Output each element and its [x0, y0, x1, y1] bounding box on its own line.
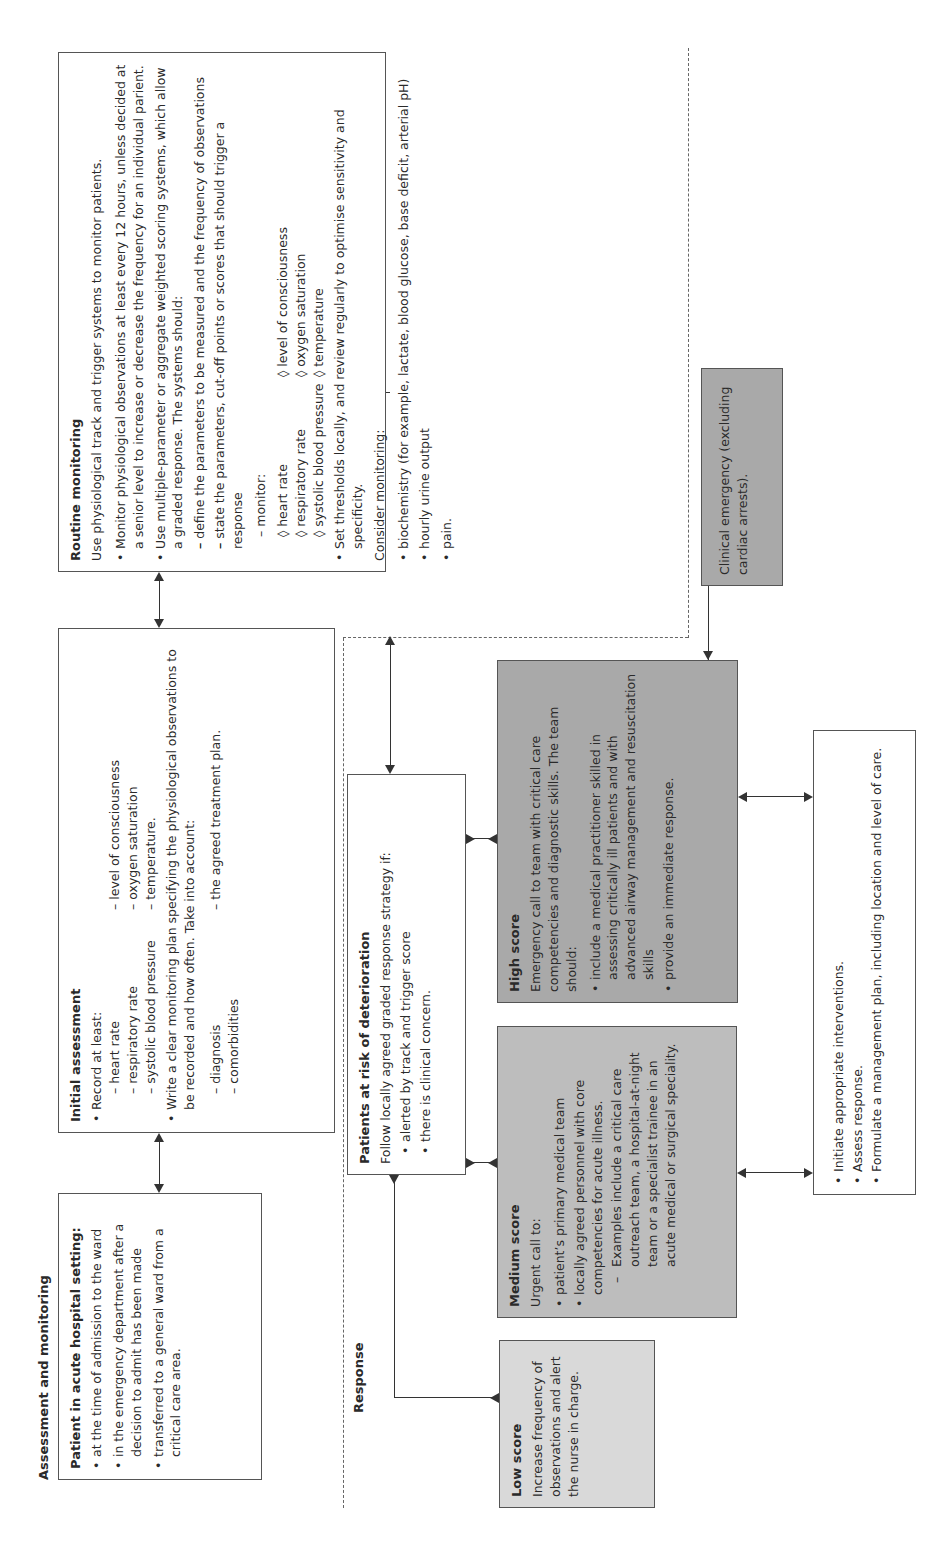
- atrisk-lowscore-connector: [394, 1175, 395, 1398]
- arrowhead-icon: [738, 792, 747, 802]
- emergency-high-connector: [708, 586, 709, 660]
- connector-arrow: [386, 392, 390, 393]
- at-risk-box: Patients at risk of deterioration Follow…: [347, 774, 466, 1175]
- high-interventions-connector: [742, 796, 809, 797]
- list-item: Initiate appropriate interventions.: [830, 741, 848, 1184]
- arrowhead-icon: [804, 1168, 813, 1178]
- consider-label: Consider monitoring:: [371, 63, 389, 561]
- high-score-title: High score: [506, 671, 524, 992]
- list-item: biochemistry (for example, lactate, bloo…: [395, 63, 413, 561]
- low-score-text: Increase frequency of observations and a…: [529, 1351, 582, 1497]
- arrowhead-icon: [389, 1175, 399, 1184]
- list-item: hourly urine output: [416, 63, 434, 561]
- arrowhead-icon: [804, 792, 813, 802]
- list-item: there is clinical concern.: [417, 785, 435, 1154]
- connector-arrow: [159, 1137, 160, 1189]
- list-item: Write a clear monitoring plan specifying…: [163, 639, 242, 1122]
- patient-setting-box: Patient in acute hospital setting: at th…: [58, 1193, 262, 1480]
- initial-assessment-box: Initial assessment Record at least: – he…: [58, 628, 335, 1133]
- at-risk-intro: Follow locally agreed graded response st…: [377, 785, 395, 1164]
- high-score-intro: Emergency call to team with critical car…: [527, 671, 580, 992]
- arrowhead-icon: [490, 1393, 499, 1403]
- list-item: – define the parameters to be measured a…: [191, 63, 209, 561]
- arrowhead-icon: [154, 1133, 164, 1142]
- arrowhead-icon: [385, 636, 395, 645]
- monitor-grid: heart rate level of consciousness respir…: [274, 63, 327, 561]
- list-item: patient’s primary medical team: [551, 1037, 569, 1307]
- list-item: alerted by track and trigger score: [397, 785, 415, 1154]
- list-item: Assess response.: [849, 741, 867, 1184]
- response-section-title: Response: [350, 1342, 368, 1413]
- routine-monitoring-title: Routine monitoring: [67, 63, 85, 561]
- list-item: – the agreed treatment plan.: [207, 710, 225, 910]
- list-item: include a medical practitioner skilled i…: [587, 671, 658, 992]
- section-divider: [343, 638, 344, 1508]
- list-item: Use multiple-parameter or aggregate weig…: [152, 63, 188, 561]
- patient-setting-title: Patient in acute hospital setting:: [67, 1204, 85, 1469]
- arrowhead-icon: [466, 1158, 475, 1168]
- medium-score-intro: Urgent call to:: [527, 1037, 545, 1307]
- list-item: pain.: [438, 63, 456, 561]
- list-item: temperature: [310, 207, 328, 377]
- list-item: – temperature.: [142, 710, 160, 910]
- arrowhead-icon: [385, 765, 395, 774]
- arrowhead-icon: [154, 1184, 164, 1193]
- list-item: transferred to a general ward from a cri…: [150, 1204, 186, 1469]
- list-item: locally agreed personnel with core compe…: [571, 1037, 607, 1307]
- patient-setting-list: at the time of admission to the ward in …: [88, 1204, 185, 1469]
- arrowhead-icon: [488, 834, 497, 844]
- arrowhead-icon: [703, 651, 713, 660]
- high-score-box: High score Emergency call to team with c…: [497, 660, 738, 1003]
- list-item: systolic blood pressure: [310, 377, 328, 537]
- list-item: – diagnosis: [207, 910, 225, 1110]
- monitoring-plan-text: Write a clear monitoring plan specifying…: [164, 649, 197, 1110]
- section-divider: [688, 48, 689, 638]
- list-item: Set thresholds locally, and review regul…: [331, 63, 367, 561]
- medium-score-box: Medium score Urgent call to: patient’s p…: [497, 1026, 737, 1318]
- list-item: at the time of admission to the ward: [88, 1204, 106, 1469]
- record-label: Record at least:: [89, 1012, 104, 1110]
- clinical-emergency-text: Clinical emergency (excluding cardiac ar…: [716, 379, 752, 575]
- arrowhead-icon: [737, 1168, 746, 1178]
- list-item: – respiratory rate: [124, 910, 142, 1110]
- list-item: heart rate: [274, 377, 292, 537]
- low-score-title: Low score: [508, 1351, 526, 1497]
- medium-interventions-connector: [741, 1172, 809, 1173]
- connector-arrow: [159, 574, 160, 624]
- list-item: provide an immediate response.: [660, 671, 678, 992]
- arrowhead-icon: [154, 572, 164, 581]
- list-item: – heart rate: [106, 910, 124, 1110]
- list-item: – comorbidities: [225, 910, 243, 1110]
- arrowhead-icon: [466, 834, 475, 844]
- interventions-box: Initiate appropriate interventions. Asse…: [813, 730, 916, 1195]
- low-score-box: Low score Increase frequency of observat…: [499, 1340, 655, 1508]
- list-item: respiratory rate: [292, 377, 310, 537]
- arrowhead-icon: [154, 619, 164, 628]
- arrowhead-icon: [488, 1158, 497, 1168]
- atrisk-lowscore-connector: [394, 1397, 494, 1398]
- list-item: – systolic blood pressure: [142, 910, 160, 1110]
- routine-intro: Use physiological track and trigger syst…: [88, 63, 106, 561]
- initial-assessment-title: Initial assessment: [67, 639, 85, 1122]
- list-item: level of consciousness: [274, 207, 292, 377]
- assessment-section-title: Assessment and monitoring: [35, 1275, 53, 1480]
- list-item: Formulate a management plan, including l…: [868, 741, 886, 1184]
- list-item: in the emergency department after a deci…: [110, 1204, 146, 1469]
- medium-score-title: Medium score: [506, 1037, 524, 1307]
- list-item: – level of consciousness: [106, 710, 124, 910]
- flowchart-canvas: Assessment and monitoring Response Patie…: [0, 0, 946, 1553]
- list-item: oxygen saturation: [292, 207, 310, 377]
- list-item: Record at least: – heart rate – level of…: [88, 639, 159, 1122]
- list-item: Examples include a critical care outreac…: [608, 1037, 679, 1307]
- list-item: Monitor physiological observations at le…: [112, 63, 148, 561]
- list-item: – monitor:: [252, 63, 270, 561]
- list-item: – state the parameters, cut-off points o…: [211, 63, 247, 561]
- routine-atrisk-connector: [390, 640, 391, 770]
- routine-monitoring-box: Routine monitoring Use physiological tra…: [58, 52, 386, 572]
- clinical-emergency-box: Clinical emergency (excluding cardiac ar…: [701, 368, 783, 586]
- at-risk-title: Patients at risk of deterioration: [356, 785, 374, 1164]
- list-item: – oxygen saturation: [124, 710, 142, 910]
